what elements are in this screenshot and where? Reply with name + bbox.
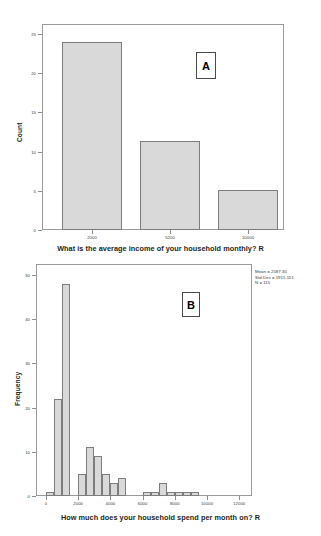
- y-tick-label-a-20: 20: [26, 71, 36, 76]
- stats-n: N = 115: [255, 280, 294, 286]
- y-tick-a-25: [38, 34, 42, 35]
- x-tick-label-b-10000: 10000: [201, 501, 213, 506]
- bar-a-1: [62, 42, 122, 230]
- hist-bin-b-14: [159, 483, 167, 496]
- y-tick-b-50: [32, 275, 36, 276]
- x-tick-b-12000: [239, 496, 240, 500]
- x-tick-b-4000: [110, 496, 111, 500]
- x-tick-label-b-8000: 8000: [170, 501, 180, 506]
- hist-bin-b-10: [118, 478, 126, 496]
- top-text-fragment: [0, 0, 321, 8]
- y-tick-b-10: [32, 452, 36, 453]
- y-tick-a-15: [38, 112, 42, 113]
- y-tick-label-b-30: 30: [20, 361, 30, 366]
- y-tick-label-a-0: 0: [26, 228, 36, 233]
- y-tick-label-a-15: 15: [26, 110, 36, 115]
- x-tick-label-a-2: 5200: [165, 235, 175, 240]
- hist-bin-b-8: [102, 474, 110, 496]
- stats-annotation-b: Mean = 2587.30 Std Dev = 1915.551 N = 11…: [255, 269, 294, 286]
- x-tick-b-6000: [143, 496, 144, 500]
- y-tick-a-10: [38, 152, 42, 153]
- y-tick-label-b-50: 50: [20, 273, 30, 278]
- hist-bin-b-16: [175, 492, 183, 496]
- x-axis-title-b: How much does your household spend per m…: [0, 513, 321, 522]
- panel-label-b: B: [182, 292, 200, 317]
- x-tick-label-b-6000: 6000: [138, 501, 148, 506]
- hist-bin-b-12: [143, 492, 151, 496]
- x-tick-b-0: [46, 496, 47, 500]
- y-tick-label-b-40: 40: [20, 317, 30, 322]
- x-tick-b-8000: [175, 496, 176, 500]
- y-tick-label-b-10: 10: [20, 449, 30, 454]
- x-tick-a-3: [248, 230, 249, 234]
- y-tick-a-20: [38, 73, 42, 74]
- figure-a: Count 0 5 10 15 20 25 2000 5200 10000 A …: [0, 10, 321, 258]
- bar-a-3: [218, 190, 278, 230]
- y-tick-a-0: [38, 230, 42, 231]
- x-tick-label-a-3: 10000: [242, 235, 254, 240]
- hist-bin-b-15: [167, 492, 175, 496]
- hist-bin-b-3: [62, 284, 70, 496]
- x-tick-label-b-4000: 4000: [106, 501, 116, 506]
- hist-bin-b-9: [110, 483, 118, 496]
- y-axis-title-b: Frequency: [14, 372, 21, 406]
- y-tick-label-a-25: 25: [26, 32, 36, 37]
- hist-bin-b-18: [191, 492, 199, 496]
- x-tick-b-2000: [78, 496, 79, 500]
- y-tick-label-b-20: 20: [20, 405, 30, 410]
- x-axis-title-a: What is the average income of your house…: [0, 244, 321, 253]
- y-tick-b-0: [32, 496, 36, 497]
- y-tick-a-5: [38, 191, 42, 192]
- hist-bin-b-7: [94, 456, 102, 496]
- hist-bin-b-2: [54, 399, 62, 496]
- y-tick-b-30: [32, 363, 36, 364]
- y-tick-label-b-0: 0: [20, 494, 30, 499]
- bar-a-2: [140, 141, 200, 230]
- hist-bin-b-6: [86, 447, 94, 496]
- y-tick-b-40: [32, 319, 36, 320]
- y-axis-title-a: Count: [16, 122, 23, 142]
- panel-label-a: A: [196, 52, 216, 79]
- figure-b: Frequency 0 10 20 30 40 50 0: [0, 258, 321, 536]
- x-tick-label-b-2000: 2000: [73, 501, 83, 506]
- hist-bin-b-17: [183, 492, 191, 496]
- x-tick-label-b-0: 0: [45, 501, 47, 506]
- x-tick-a-2: [170, 230, 171, 234]
- y-tick-label-a-5: 5: [26, 188, 36, 193]
- x-tick-b-10000: [207, 496, 208, 500]
- hist-bin-b-13: [151, 492, 159, 496]
- y-tick-label-a-10: 10: [26, 149, 36, 154]
- y-tick-b-20: [32, 408, 36, 409]
- x-tick-label-b-12000: 12000: [233, 501, 245, 506]
- x-tick-a-1: [92, 230, 93, 234]
- figure-page: Count 0 5 10 15 20 25 2000 5200 10000 A …: [0, 0, 321, 536]
- hist-bin-b-1: [46, 492, 54, 496]
- x-tick-label-a-1: 2000: [87, 235, 97, 240]
- hist-bin-b-5: [78, 474, 86, 496]
